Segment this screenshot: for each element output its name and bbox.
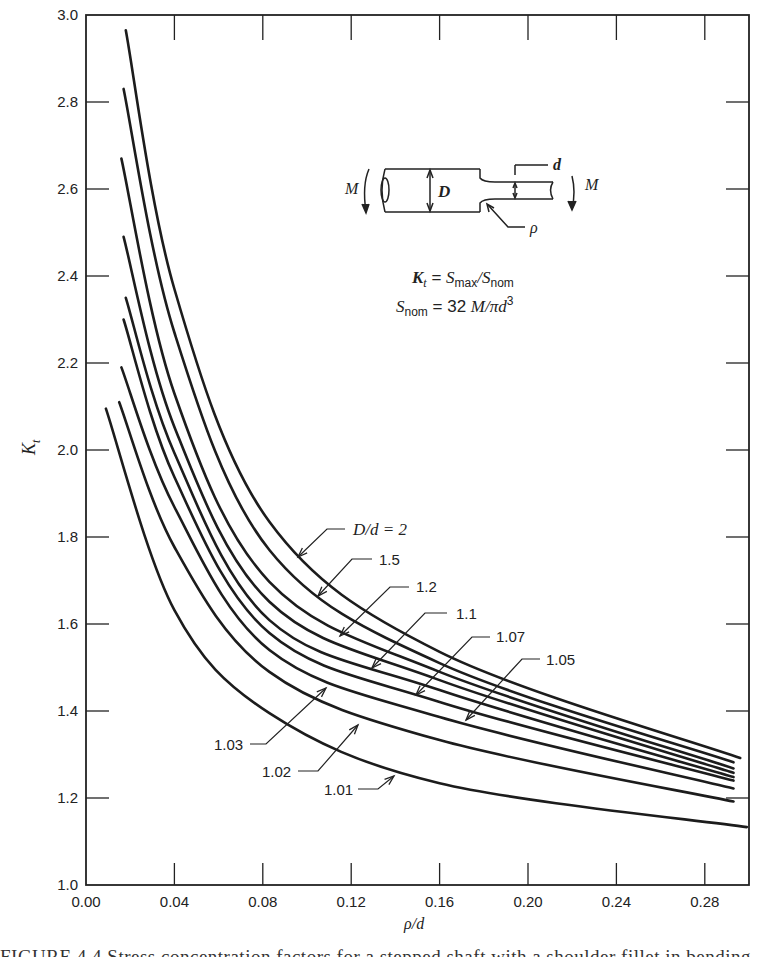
curve-label: 1.07 <box>496 628 525 645</box>
curve-label: 1.01 <box>324 781 353 798</box>
inset-label-rho: ρ <box>529 219 538 237</box>
y-tick-label: 2.4 <box>57 267 78 284</box>
y-tick-label: 1.8 <box>57 528 78 545</box>
curve-label: 1.2 <box>416 578 437 595</box>
formula-snom: Snom = 32 M/πd3 <box>396 294 514 319</box>
x-tick-label: 0.16 <box>425 893 454 910</box>
curve-1.07 <box>126 298 734 777</box>
y-tick-label: 2.8 <box>57 93 78 110</box>
y-tick-label: 1.2 <box>57 789 78 806</box>
curve-labels: D/d = 21.51.21.11.071.051.031.021.01 <box>214 520 575 798</box>
curve-label: 1.05 <box>546 651 575 668</box>
inset-label-d: d <box>553 156 562 173</box>
y-tick-label: 1.6 <box>57 615 78 632</box>
plot-border <box>86 15 749 885</box>
curve-Dd2 <box>126 30 740 758</box>
curves <box>106 30 747 827</box>
curve-label: 1.1 <box>456 605 477 622</box>
y-axis-label: Kt <box>19 439 43 456</box>
curve-label: 1.02 <box>262 763 291 780</box>
curve-label: D/d = 2 <box>352 520 407 539</box>
curve-1.5 <box>124 89 734 762</box>
stress-concentration-chart: 1.01.21.41.61.82.02.22.42.62.83.00.000.0… <box>0 0 765 957</box>
curve-label: 1.03 <box>214 736 243 753</box>
y-tick-label: 1.4 <box>57 702 78 719</box>
x-tick-label: 0.04 <box>160 893 189 910</box>
plot-frame <box>86 15 749 885</box>
x-tick-label: 0.12 <box>337 893 366 910</box>
stepped-shaft-diagram <box>362 165 576 227</box>
figure-caption: FIGURE 4.4 Stress concentration factors … <box>0 944 765 957</box>
inset-label-D: D <box>437 182 450 201</box>
x-tick-label: 0.28 <box>690 893 719 910</box>
inset-label-M-right: M <box>584 176 600 193</box>
inset-label-M-left: M <box>344 180 360 197</box>
x-axis-label: ρ/d <box>403 915 425 933</box>
x-tick-label: 0.20 <box>513 893 542 910</box>
y-tick-label: 3.0 <box>57 6 78 23</box>
formula-kt: Kt = Smax/Snom <box>411 268 514 290</box>
curve-1.05 <box>124 320 734 781</box>
x-tick-label: 0.00 <box>71 893 100 910</box>
y-tick-label: 2.2 <box>57 354 78 371</box>
y-tick-label: 1.0 <box>57 876 78 893</box>
curve-1.01 <box>106 409 747 827</box>
y-tick-label: 2.0 <box>57 441 78 458</box>
curve-1.02 <box>119 402 733 801</box>
x-tick-label: 0.08 <box>248 893 277 910</box>
curve-1.1 <box>124 237 734 773</box>
x-tick-label: 0.24 <box>602 893 631 910</box>
curve-label: 1.5 <box>379 551 400 568</box>
y-tick-label: 2.6 <box>57 180 78 197</box>
